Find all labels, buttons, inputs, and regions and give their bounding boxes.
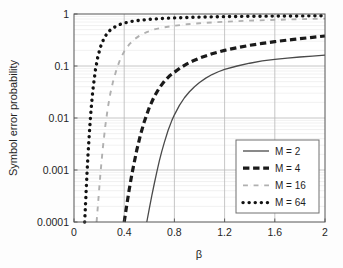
legend-label-M64[interactable]: M = 64 — [275, 197, 306, 208]
x-tick-label: 0 — [71, 226, 77, 238]
x-tick-label: 0.4 — [117, 226, 132, 238]
figure-canvas: 10.10.010.0010.0001 00.40.81.21.62 β Sym… — [0, 0, 343, 268]
x-tick-label: 1.2 — [217, 226, 232, 238]
x-tick-label: 2 — [322, 226, 328, 238]
symbol-error-probability-chart: 10.10.010.0010.0001 00.40.81.21.62 β Sym… — [0, 0, 343, 268]
legend-label-M2[interactable]: M = 2 — [275, 146, 301, 157]
y-tick-label: 0.0001 — [37, 216, 69, 228]
y-tick-label: 0.01 — [49, 112, 70, 124]
y-tick-label: 1 — [63, 8, 69, 20]
y-tick-label: 0.1 — [54, 60, 69, 72]
legend-label-M4[interactable]: M = 4 — [275, 163, 301, 174]
x-tick-label: 0.8 — [167, 226, 182, 238]
legend-label-M16[interactable]: M = 16 — [275, 180, 306, 191]
y-axis-title: Symbol error probability — [7, 59, 19, 176]
x-tick-label: 1.6 — [267, 226, 282, 238]
y-tick-label: 0.001 — [43, 164, 69, 176]
x-axis-title: β — [196, 248, 202, 260]
legend[interactable]: M = 2M = 4M = 16M = 64 — [236, 140, 319, 213]
